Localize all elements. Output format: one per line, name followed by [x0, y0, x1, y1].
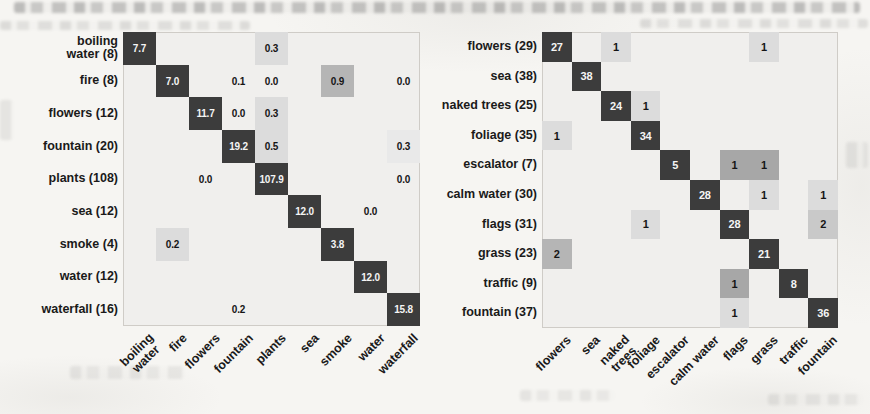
row-label: sea (38)	[330, 62, 537, 92]
cell-value: 0.0	[232, 108, 245, 119]
matrix-cell: 7.7	[123, 32, 156, 65]
matrix-cell: 1	[720, 298, 750, 328]
matrix-cell: 5	[660, 150, 690, 180]
matrix-cell: 0.3	[255, 97, 288, 130]
matrix-cell: 38	[572, 62, 602, 92]
row-label: plants (108)	[0, 163, 118, 196]
cell-value: 1	[613, 41, 619, 53]
matrix-cell: 1	[631, 210, 661, 240]
cell-value: 7.0	[166, 76, 179, 87]
col-label-text: sea	[297, 332, 321, 356]
cell-value: 2	[554, 248, 560, 260]
matrix-cell: 0.2	[222, 293, 255, 326]
row-label: waterfall (16)	[0, 293, 118, 326]
cell-value: 2	[820, 218, 826, 230]
matrix-cell: 0.0	[255, 65, 288, 98]
row-label: grass (23)	[330, 239, 537, 269]
matrix-cell: 8	[779, 269, 809, 299]
cell-value: 0.2	[166, 239, 179, 250]
matrix-cell: 2	[542, 239, 572, 269]
row-label: escalator (7)	[330, 150, 537, 180]
matrix-cell: 0.3	[255, 32, 288, 65]
matrix-cell: 1	[720, 269, 750, 299]
matrix-cell: 1	[542, 121, 572, 151]
cell-value: 0.0	[199, 174, 212, 185]
matrix-cell: 1	[720, 150, 750, 180]
cell-value: 107.9	[259, 174, 283, 185]
row-label: flowers (12)	[0, 97, 118, 130]
cell-value: 28	[728, 218, 740, 230]
row-label: naked trees (25)	[330, 91, 537, 121]
matrix-cell: 0.5	[255, 130, 288, 163]
cell-value: 0.2	[232, 304, 245, 315]
row-label: fountain (37)	[330, 298, 537, 328]
ink-bleed-smudge	[14, 2, 860, 13]
cell-value: 0.0	[265, 76, 278, 87]
cell-value: 1	[731, 278, 737, 290]
cell-value: 1	[643, 100, 649, 112]
cell-value: 34	[640, 130, 652, 142]
cell-value: 1	[554, 130, 560, 142]
row-label: flags (31)	[330, 210, 537, 240]
ink-bleed-smudge	[846, 142, 868, 168]
cell-value: 21	[758, 248, 770, 260]
cell-value: 1	[731, 307, 737, 319]
matrix-cell: 1	[631, 91, 661, 121]
matrix-cell: 11.7	[189, 97, 222, 130]
row-label: boiling water (8)	[0, 32, 118, 65]
cell-value: 1	[731, 159, 737, 171]
matrix-cell: 0.0	[189, 163, 222, 196]
cell-value: 1	[761, 41, 767, 53]
row-label: traffic (9)	[330, 269, 537, 299]
matrix-cell: 21	[749, 239, 779, 269]
cell-value: 0.1	[232, 76, 245, 87]
cell-value: 0.5	[265, 141, 278, 152]
cell-value: 11.7	[196, 108, 214, 119]
matrix-cell: 1	[601, 32, 631, 62]
matrix-cell: 107.9	[255, 163, 288, 196]
matrix-cell: 34	[631, 121, 661, 151]
cell-value: 24	[610, 100, 622, 112]
row-label: flowers (29)	[330, 32, 537, 62]
matrix-cell: 1	[749, 32, 779, 62]
matrix-cell: 0.2	[156, 228, 189, 261]
cell-value: 0.3	[265, 108, 278, 119]
cell-value: 19.2	[229, 141, 248, 152]
matrix-cell: 1	[749, 150, 779, 180]
cell-value: 7.7	[133, 43, 146, 54]
matrix-cell: 0.0	[222, 97, 255, 130]
cell-value: 12.0	[295, 206, 314, 217]
cell-value: 28	[699, 189, 711, 201]
matrix-cell: 2	[808, 210, 838, 240]
row-label: calm water (30)	[330, 180, 537, 210]
matrix-cell: 27	[542, 32, 572, 62]
matrix-cell: 1	[749, 180, 779, 210]
cell-value: 1	[820, 189, 826, 201]
cell-value: 1	[761, 189, 767, 201]
cell-value: 8	[791, 278, 797, 290]
cell-value: 5	[672, 159, 678, 171]
row-label: water (12)	[0, 261, 118, 294]
matrix-cell: 0.1	[222, 65, 255, 98]
cell-value: 1	[761, 159, 767, 171]
matrix-cell: 28	[720, 210, 750, 240]
row-label: foliage (35)	[330, 121, 537, 151]
matrix-cell: 19.2	[222, 130, 255, 163]
matrix-cell: 12.0	[288, 195, 321, 228]
matrix-cell: 28	[690, 180, 720, 210]
matrix-cell: 7.0	[156, 65, 189, 98]
cell-value: 38	[580, 70, 592, 82]
row-label: sea (12)	[0, 195, 118, 228]
ink-bleed-smudge	[640, 19, 868, 28]
cell-value: 27	[551, 41, 563, 53]
col-label-text: fire	[166, 332, 189, 355]
cell-value: 0.3	[265, 43, 278, 54]
matrix-cell: 1	[808, 180, 838, 210]
row-label: fountain (20)	[0, 130, 118, 163]
matrix-cell: 36	[808, 298, 838, 328]
ink-bleed-smudge	[0, 21, 250, 30]
cell-value: 36	[817, 307, 829, 319]
matrix-cell: 24	[601, 91, 631, 121]
cell-value: 1	[643, 218, 649, 230]
row-label: smoke (4)	[0, 228, 118, 261]
